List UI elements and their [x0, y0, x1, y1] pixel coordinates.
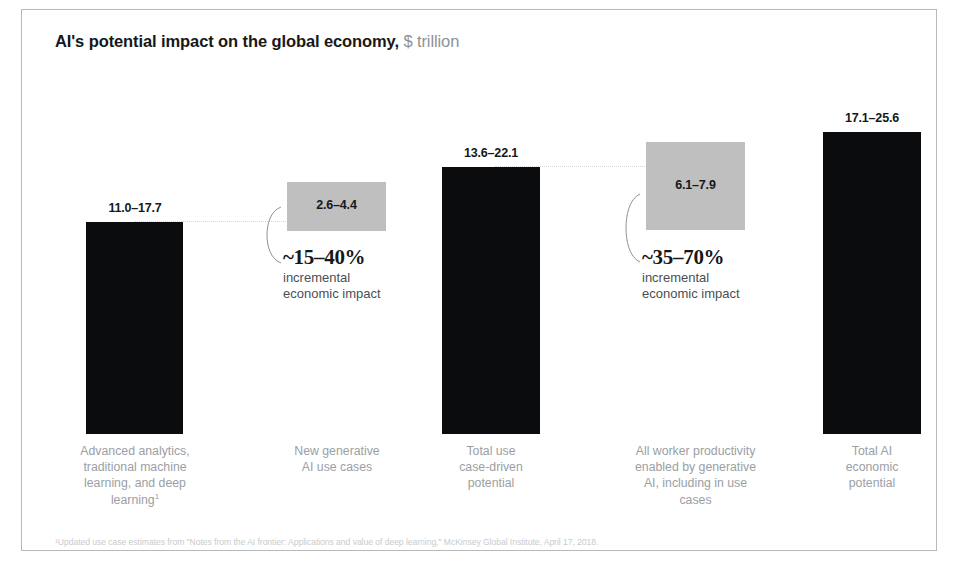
category-line: Total AI [852, 444, 892, 458]
callout-incremental-2: ~35–70% incremental economic impact [642, 246, 822, 303]
callout-incremental-1: ~15–40% incremental economic impact [283, 246, 463, 303]
category-label-total-use-case: Total use case-driven potential [416, 443, 566, 492]
value-label-bar-total-use-case: 13.6–22.1 [421, 146, 561, 160]
callout-subtext-2: incremental economic impact [642, 270, 822, 303]
footnote: ¹Updated use case estimates from "Notes … [55, 537, 598, 547]
category-line: cases [679, 493, 711, 507]
bar-total-ai-potential [823, 132, 921, 434]
category-line: learning [111, 493, 155, 507]
category-line: All worker productivity [636, 444, 756, 458]
brace-connector-1 [261, 205, 285, 265]
value-label-bar-worker-productivity: 6.1–7.9 [646, 178, 745, 192]
category-line: AI, including in use [644, 476, 747, 490]
category-line: potential [849, 476, 896, 490]
brace-connector-2 [620, 192, 644, 264]
callout-subtext-2-line1: incremental [642, 270, 709, 285]
bar-advanced-analytics [86, 222, 183, 434]
category-line: AI use cases [302, 460, 372, 474]
callout-subtext-1: incremental economic impact [283, 270, 463, 303]
category-line: enabled by generative [635, 460, 756, 474]
value-label-bar-new-gen-ai: 2.6–4.4 [287, 198, 386, 212]
bar-total-use-case [442, 167, 540, 434]
category-label-total-ai-potential: Total AI economic potential [797, 443, 947, 492]
callout-percent-2: ~35–70% [642, 246, 822, 268]
category-line: Total use [466, 444, 515, 458]
value-label-bar-total-ai-potential: 17.1–25.6 [802, 111, 942, 125]
callout-subtext-1-line1: incremental [283, 270, 350, 285]
callout-percent-1: ~15–40% [283, 246, 463, 268]
chart-frame: AI's potential impact on the global econ… [21, 9, 937, 551]
category-line: New generative [294, 444, 379, 458]
callout-subtext-2-line2: economic impact [642, 286, 740, 301]
footnote-marker: 1 [155, 492, 159, 501]
category-label-new-gen-ai: New generative AI use cases [262, 443, 412, 475]
category-line: economic [846, 460, 899, 474]
callout-subtext-1-line2: economic impact [283, 286, 381, 301]
category-label-advanced-analytics: Advanced analytics, traditional machine … [60, 443, 210, 508]
category-line: learning, and deep [84, 476, 186, 490]
category-line: Advanced analytics, [80, 444, 189, 458]
category-label-worker-productivity: All worker productivity enabled by gener… [605, 443, 786, 508]
value-label-bar-advanced-analytics: 11.0–17.7 [65, 201, 205, 215]
category-line: traditional machine [83, 460, 186, 474]
category-line: case-driven [459, 460, 523, 474]
plot-area: 11.0–17.7 2.6–4.4 ~15–40% incremental ec… [22, 10, 936, 550]
category-line: potential [468, 476, 515, 490]
